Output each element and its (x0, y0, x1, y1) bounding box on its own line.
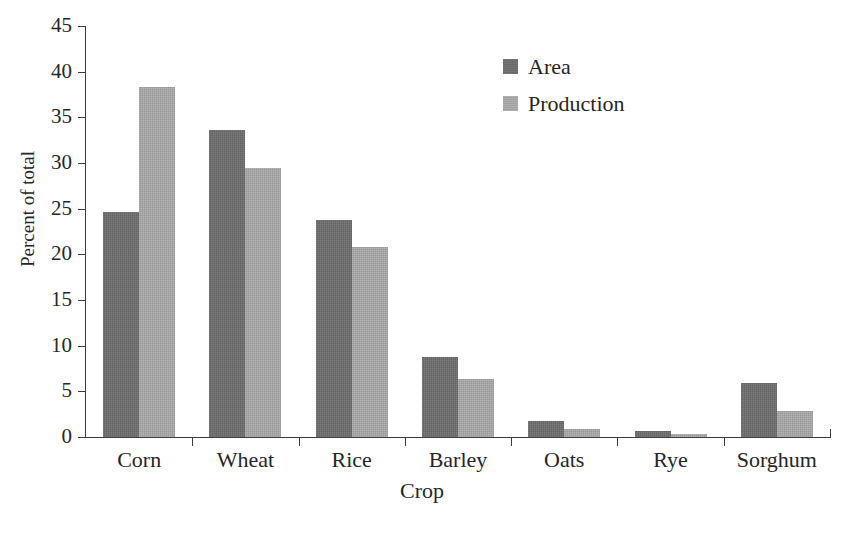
legend-swatch-icon (503, 96, 518, 111)
x-axis-tick (405, 437, 406, 446)
y-axis-tick-label-text: 45 (26, 15, 72, 36)
x-axis-tick (299, 437, 300, 446)
y-axis-tick-label-text: 10 (26, 335, 72, 356)
legend-label: Area (528, 55, 571, 79)
y-axis-tick-label: 45 (22, 15, 72, 36)
legend-label: Production (528, 92, 625, 116)
bar-oats-production (564, 429, 600, 437)
x-axis-tick-label: Wheat (192, 447, 298, 473)
bars-layer (86, 26, 830, 437)
x-axis-tick-label: Rice (299, 447, 405, 473)
bar-wheat-production (245, 168, 281, 437)
bar-rice-area (316, 220, 352, 437)
bar-chart: 051015202530354045 CornWheatRiceBarleyOa… (0, 0, 844, 535)
y-axis-tick (78, 391, 85, 392)
y-axis-tick (78, 209, 85, 210)
bar-rye-area (635, 431, 671, 437)
bar-rye-production (671, 434, 707, 437)
bar-oats-area (528, 421, 564, 437)
x-axis-tick-label: Sorghum (724, 447, 830, 473)
y-axis-tick-label: 5 (22, 380, 72, 401)
y-axis-tick-label-text: 5 (26, 380, 72, 401)
y-axis-tick (78, 72, 85, 73)
chart-legend: AreaProduction (503, 48, 625, 122)
y-axis-tick (78, 117, 85, 118)
x-axis-tick-label: Corn (86, 447, 192, 473)
y-axis-tick-label-text: 40 (26, 61, 72, 82)
x-axis-tick-label: Oats (511, 447, 617, 473)
y-axis-tick (78, 346, 85, 347)
bar-corn-area (103, 212, 139, 437)
x-axis-line (85, 437, 831, 438)
x-axis-tick (192, 437, 193, 446)
bar-barley-production (458, 379, 494, 437)
bar-rice-production (352, 247, 388, 437)
bar-sorghum-area (741, 383, 777, 437)
bar-barley-area (422, 357, 458, 437)
bar-sorghum-production (777, 411, 813, 437)
x-axis-tick (724, 437, 725, 446)
y-axis-tick-label-text: 0 (26, 426, 72, 447)
legend-swatch-icon (503, 59, 518, 74)
legend-item-production: Production (503, 85, 625, 122)
y-axis-tick (78, 26, 85, 27)
y-axis-tick (78, 163, 85, 164)
bar-corn-production (139, 87, 175, 437)
y-axis-title: Percent of total (17, 119, 39, 299)
legend-item-area: Area (503, 48, 625, 85)
y-axis-tick (78, 300, 85, 301)
bar-wheat-area (209, 130, 245, 437)
y-axis-tick-label: 40 (22, 61, 72, 82)
y-axis-tick-label: 0 (22, 426, 72, 447)
y-axis-tick-label: 10 (22, 335, 72, 356)
x-axis-tick-label: Rye (617, 447, 723, 473)
y-axis-tick (78, 254, 85, 255)
y-axis-tick (78, 437, 85, 438)
x-axis-end-tick (830, 429, 831, 438)
x-axis-title: Crop (0, 478, 844, 504)
x-axis-tick (617, 437, 618, 446)
x-axis-tick-label: Barley (405, 447, 511, 473)
x-axis-tick (511, 437, 512, 446)
